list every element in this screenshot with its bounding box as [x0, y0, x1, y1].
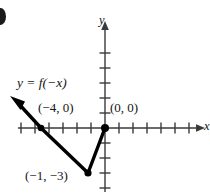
point-label-vertex: (−1, −3)	[25, 169, 68, 182]
point-label-origin: (0, 0)	[110, 101, 138, 114]
point-marker-origin	[101, 124, 109, 132]
graph-figure: y = f(−x) (−4, 0) (0, 0) (−1, −3) y x	[0, 0, 210, 196]
point-label-x-intercept: (−4, 0)	[38, 101, 74, 114]
coordinate-plane	[0, 0, 210, 196]
y-axis-label: y	[99, 14, 105, 27]
point-marker-x-intercept	[38, 125, 45, 132]
x-axis-label: x	[204, 120, 210, 133]
point-marker-vertex	[84, 169, 91, 176]
function-equation-label: y = f(−x)	[17, 76, 67, 90]
